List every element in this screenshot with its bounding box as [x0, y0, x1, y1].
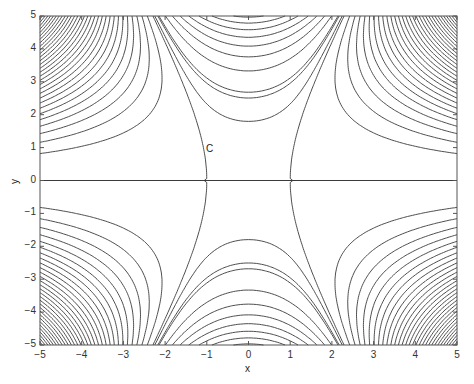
y-tick-label: −1: [12, 207, 36, 217]
y-tick-label: 5: [12, 10, 36, 20]
y-axis-label: y: [9, 179, 20, 184]
y-tick-label: 3: [12, 76, 36, 86]
x-tick-label: −3: [118, 350, 129, 360]
y-tick-label: −3: [12, 273, 36, 283]
x-axis-label: x: [245, 363, 250, 374]
x-tick-label: −4: [76, 350, 87, 360]
contour-annotation-c: C: [206, 143, 213, 154]
x-tick-label: 1: [287, 350, 293, 360]
y-tick-label: −4: [12, 306, 36, 316]
x-tick-label: 3: [371, 350, 377, 360]
x-tick-label: 4: [413, 350, 419, 360]
x-tick-label: 2: [329, 350, 335, 360]
y-tick-label: −2: [12, 240, 36, 250]
y-tick-label: 2: [12, 109, 36, 119]
x-tick-label: −1: [201, 350, 212, 360]
y-tick-label: 4: [12, 43, 36, 53]
x-tick-label: −5: [34, 350, 45, 360]
x-tick-label: 5: [454, 350, 460, 360]
y-tick-label: −5: [12, 339, 36, 349]
x-tick-label: 0: [246, 350, 252, 360]
x-tick-label: −2: [159, 350, 170, 360]
y-tick-label: 1: [12, 142, 36, 152]
contour-plot: [0, 0, 474, 384]
